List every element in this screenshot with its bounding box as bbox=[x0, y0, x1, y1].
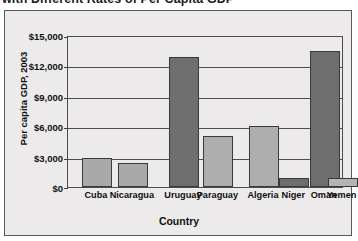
x-tick-label-paraguay: Paraguay bbox=[197, 190, 238, 200]
bar-uruguay bbox=[169, 57, 199, 187]
x-tick-label-yemen: Yemen bbox=[327, 190, 357, 200]
plot-area bbox=[67, 36, 343, 188]
y-tick-label: $3,000 bbox=[34, 152, 63, 163]
bars-layer bbox=[68, 37, 342, 187]
y-tick-label: $15,000 bbox=[29, 31, 63, 42]
chart-figure: Per capita GDP, 2003 $0$3,000$6,000$9,00… bbox=[4, 10, 352, 236]
y-tick-label: $9,000 bbox=[34, 91, 63, 102]
x-axis-tick-labels: CubaNicaraguaUruguayParaguayAlgeriaNiger… bbox=[67, 190, 343, 204]
x-tick-label-algeria: Algeria bbox=[247, 190, 278, 200]
chart-title: with Different Rates of Per Capita GDP bbox=[2, 0, 234, 6]
bar-cuba bbox=[82, 158, 112, 187]
bar-paraguay bbox=[203, 136, 233, 187]
x-axis-title: Country bbox=[5, 215, 353, 227]
y-tick-label: $0 bbox=[52, 183, 63, 194]
y-tick-label: $12,000 bbox=[29, 61, 63, 72]
y-tick-label: $6,000 bbox=[34, 122, 63, 133]
bar-niger bbox=[279, 178, 309, 187]
bar-algeria bbox=[249, 126, 279, 187]
y-axis-tick-labels: $0$3,000$6,000$9,000$12,000$15,000 bbox=[11, 36, 65, 188]
y-tick-mark bbox=[64, 188, 68, 189]
x-tick-label-nicaragua: Nicaragua bbox=[110, 190, 154, 200]
bar-oman bbox=[310, 51, 340, 187]
x-tick-label-niger: Niger bbox=[282, 190, 306, 200]
x-tick-label-cuba: Cuba bbox=[84, 190, 107, 200]
bar-nicaragua bbox=[118, 163, 148, 187]
bar-yemen bbox=[328, 178, 358, 187]
chart-title-strip: with Different Rates of Per Capita GDP bbox=[0, 0, 358, 9]
